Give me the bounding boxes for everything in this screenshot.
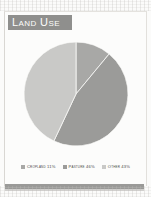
figure-panel: Land Use Cropland 11% Pasture 46% Other … (4, 11, 147, 186)
chart-legend: Cropland 11% Pasture 46% Other 43% (5, 164, 146, 169)
legend-item-pasture: Pasture 46% (63, 164, 95, 169)
legend-label-other: Other 43% (108, 164, 130, 169)
legend-swatch-cropland (21, 165, 25, 169)
legend-item-other: Other 43% (102, 164, 130, 169)
legend-swatch-pasture (63, 165, 67, 169)
pie-chart-svg (24, 42, 128, 146)
page-title: Land Use (12, 17, 60, 28)
legend-label-cropland: Cropland 11% (27, 164, 56, 169)
legend-label-pasture: Pasture 46% (69, 164, 95, 169)
legend-item-cropland: Cropland 11% (21, 164, 56, 169)
figure-title-band: Land Use (8, 15, 72, 30)
scan-bottom-margin (0, 186, 151, 197)
legend-swatch-other (102, 165, 106, 169)
pie-chart (24, 42, 128, 146)
scanned-figure-page: Land Use Cropland 11% Pasture 46% Other … (0, 0, 151, 197)
pie-chart-graphic (24, 42, 128, 146)
scan-top-margin (0, 0, 151, 11)
